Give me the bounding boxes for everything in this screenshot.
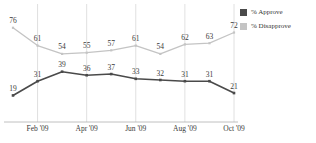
legend-swatch-approve [240, 9, 247, 16]
chart-legend: % Approve % Disapprove [240, 8, 316, 36]
legend-item-disapprove[interactable]: % Disapprove [240, 22, 316, 31]
data-point-marker [184, 80, 187, 83]
data-point-marker [61, 70, 64, 73]
data-point-marker [134, 78, 137, 81]
axis-tick-label-4: Oct '09 [223, 124, 245, 133]
data-label: 54 [157, 42, 165, 51]
data-point-marker [36, 44, 38, 46]
legend-item-approve[interactable]: % Approve [240, 8, 316, 17]
data-label: 31 [181, 70, 189, 79]
series-line-approve [13, 72, 234, 96]
gridlines [38, 4, 234, 122]
data-label: 31 [206, 70, 214, 79]
data-label: 37 [107, 63, 115, 72]
data-label: 33 [132, 67, 140, 76]
data-label: 57 [107, 39, 115, 48]
data-label: 21 [230, 82, 238, 91]
data-point-marker [135, 44, 137, 46]
data-point-marker [36, 80, 39, 83]
data-label: 39 [58, 60, 66, 69]
legend-label-approve: % Approve [251, 8, 283, 17]
data-point-marker [12, 94, 15, 97]
data-label: 55 [83, 41, 91, 50]
data-point-marker [61, 53, 63, 55]
data-point-marker [110, 49, 112, 51]
data-label: 62 [181, 33, 189, 42]
data-point-marker [12, 27, 14, 29]
axis-tick-label-2: Jun '09 [125, 124, 146, 133]
data-label: 19 [9, 84, 17, 93]
axis-tick-label-0: Feb '09 [27, 124, 49, 133]
data-label: 61 [34, 34, 42, 43]
data-label: 63 [206, 32, 214, 41]
axis-tick-label-1: Apr '09 [75, 124, 97, 133]
data-point-marker [233, 31, 235, 33]
data-label: 72 [230, 21, 238, 30]
data-point-marker [208, 42, 210, 44]
series-line-disapprove [13, 28, 234, 54]
data-label: 76 [9, 16, 17, 25]
data-point-marker [208, 80, 211, 83]
data-point-marker [159, 53, 161, 55]
poll-approval-line-chart: 7661545557615462637219313936373332313121… [0, 0, 316, 143]
data-label: 54 [58, 42, 66, 51]
x-axis-tick-labels: Feb '09Apr '09Jun '09Aug '09Oct '09 [0, 124, 240, 138]
data-point-marker [85, 74, 88, 77]
data-point-marker [159, 79, 162, 82]
data-point-marker [233, 92, 236, 95]
data-label: 36 [83, 64, 91, 73]
series-lines [12, 27, 236, 97]
data-point-marker [86, 52, 88, 54]
legend-label-disapprove: % Disapprove [251, 22, 291, 31]
data-label: 31 [34, 70, 42, 79]
data-point-marker [184, 43, 186, 45]
chart-plot-area: 7661545557615462637219313936373332313121 [0, 0, 240, 143]
data-label: 32 [157, 69, 165, 78]
axis-tick-label-3: Aug '09 [173, 124, 197, 133]
data-label: 61 [132, 34, 140, 43]
data-point-marker [110, 73, 113, 76]
legend-swatch-disapprove [240, 23, 247, 30]
